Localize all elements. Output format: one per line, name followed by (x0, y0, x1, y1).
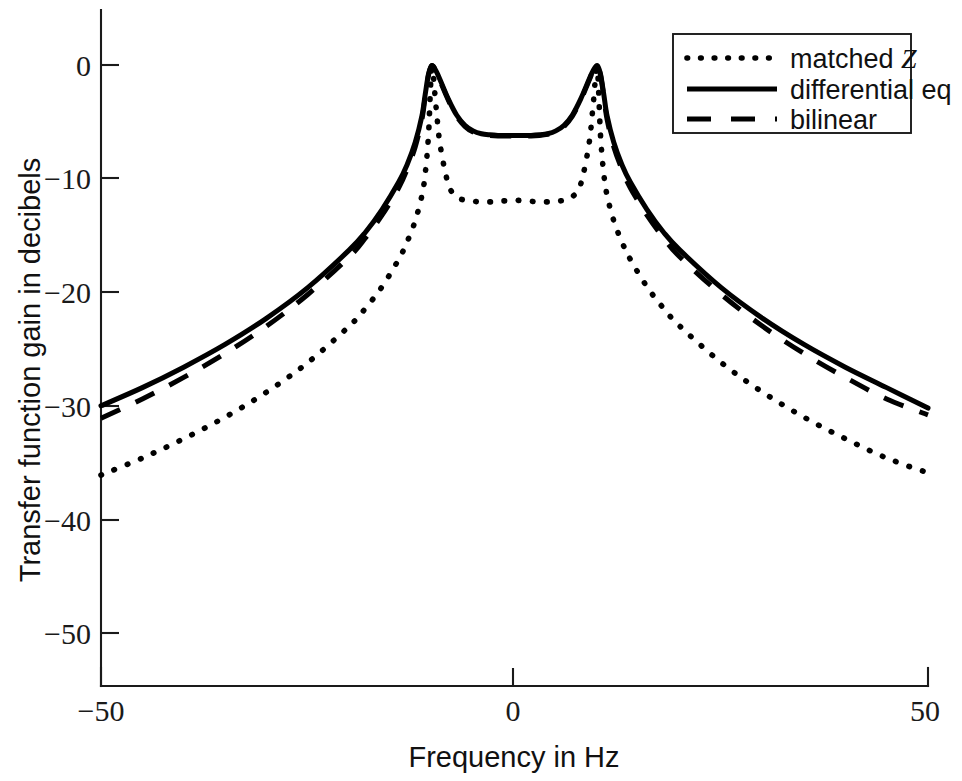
x-tick-label-neg50: −50 (78, 694, 125, 727)
legend-label-matched-z: matched Z (790, 43, 917, 74)
y-tick-label-0: 0 (76, 49, 91, 82)
bode-magnitude-plot: 0 −10 −20 −30 −40 −50 −50 0 50 Frequency… (0, 0, 962, 781)
y-tick-label-30: −30 (44, 390, 91, 423)
legend: matched Z differential eq bilinear (673, 34, 952, 135)
y-ticks-group: 0 −10 −20 −30 −40 −50 (44, 49, 119, 650)
legend-label-differential-eq: differential eq (790, 75, 952, 105)
y-tick-label-50: −50 (44, 617, 91, 650)
x-tick-label-0: 0 (506, 694, 521, 727)
figure-container: 0 −10 −20 −30 −40 −50 −50 0 50 Frequency… (0, 0, 962, 781)
x-ticks-group: −50 0 50 (78, 668, 940, 727)
y-tick-label-40: −40 (44, 504, 91, 537)
y-tick-label-10: −10 (44, 162, 91, 195)
y-axis-title: Transfer function gain in decibels (14, 158, 46, 583)
x-tick-label-50: 50 (910, 694, 940, 727)
x-axis-title: Frequency in Hz (408, 741, 619, 773)
legend-label-bilinear: bilinear (790, 105, 877, 135)
y-tick-label-20: −20 (44, 276, 91, 309)
